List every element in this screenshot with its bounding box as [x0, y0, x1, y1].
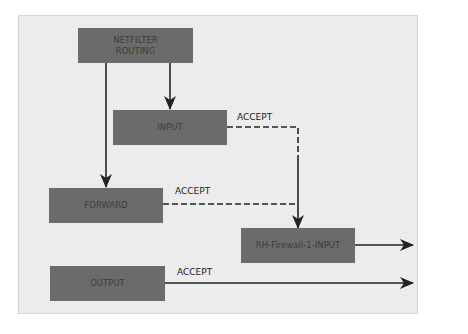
node-rh-firewall-label: RH-Firewall-1-INPUT [256, 240, 340, 251]
node-rh-firewall-1-input: RH-Firewall-1-INPUT [241, 228, 355, 263]
node-netfilter-routing-line1: NETFILTER [113, 35, 157, 46]
node-output-label: OUTPUT [90, 278, 125, 289]
edge-label-input-accept: ACCEPT [237, 112, 272, 122]
node-netfilter-routing: NETFILTER ROUTING [78, 28, 193, 63]
edge-label-output-accept: ACCEPT [177, 267, 212, 277]
node-input: INPUT [113, 110, 227, 145]
edge-label-forward-accept: ACCEPT [175, 186, 210, 196]
node-output: OUTPUT [50, 266, 165, 301]
node-netfilter-routing-line2: ROUTING [116, 46, 155, 57]
node-forward: FORWARD [49, 188, 163, 223]
node-input-label: INPUT [157, 122, 182, 133]
node-forward-label: FORWARD [84, 200, 127, 211]
